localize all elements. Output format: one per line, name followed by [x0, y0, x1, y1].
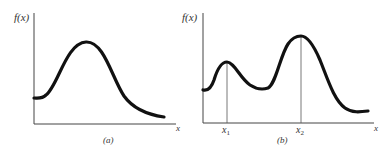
panel-a-x-label: x [175, 123, 180, 133]
panel-a-y-label: f(x) [14, 11, 30, 24]
x2-subscript: 2 [300, 129, 304, 137]
x1-subscript: 1 [226, 129, 230, 137]
x1-label: x1 [221, 124, 230, 137]
panel-b-y-label: f(x) [182, 11, 198, 24]
panel-b: f(x) x x1 x2 (b) [182, 11, 378, 145]
panel-a-curve [34, 42, 164, 117]
figure-canvas: f(x) x (a) f(x) x x1 x2 (b) [0, 0, 389, 152]
panel-a: f(x) x (a) [14, 11, 180, 145]
panel-a-caption: (a) [103, 135, 114, 145]
panel-b-caption: (b) [277, 135, 288, 145]
x2-label: x2 [295, 124, 304, 137]
panel-b-curve [203, 36, 368, 112]
panel-b-x-label: x [373, 123, 378, 133]
